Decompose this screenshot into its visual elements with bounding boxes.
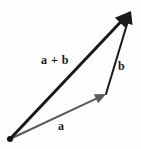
vector-diagram-canvas <box>0 0 141 149</box>
vector-b-label: b <box>118 60 125 72</box>
origin-dot <box>7 136 13 142</box>
vector-diagram-figure: a + b b a <box>0 0 141 149</box>
vector-a-label: a <box>58 120 64 132</box>
vector-sum-label: a + b <box>41 54 69 66</box>
